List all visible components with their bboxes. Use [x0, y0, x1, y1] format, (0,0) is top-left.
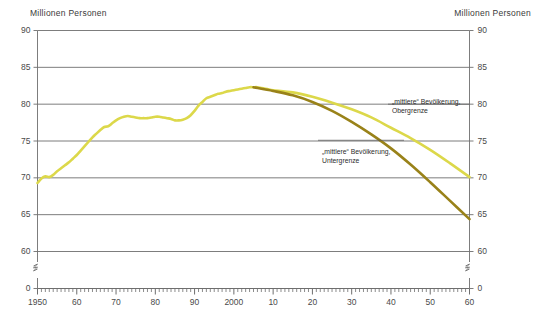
annotation-obergrenze: „mittlere“ Bevölkerung, Obergrenze	[392, 97, 460, 115]
y-tick-label-left-0: 0	[7, 283, 31, 293]
left-axis-break-icon	[34, 264, 38, 271]
y-tick-label-left-75: 75	[7, 136, 31, 146]
y-tick-label-right-75: 75	[478, 136, 502, 146]
y-tick-label-left-85: 85	[7, 62, 31, 72]
x-tick-label-10: 10	[253, 297, 293, 307]
plot-canvas	[0, 0, 539, 318]
annotation-untergrenze-line1: „mittlere“ Bevölkerung,	[322, 147, 390, 156]
y-tick-label-right-70: 70	[478, 172, 502, 182]
x-tick-label-30: 30	[332, 297, 372, 307]
x-tick-label-70: 70	[96, 297, 136, 307]
chart-figure: Millionen Personen Millionen Personen „m…	[0, 0, 539, 318]
x-tick-label-1950: 1950	[18, 297, 58, 307]
y-tick-label-right-65: 65	[478, 209, 502, 219]
x-tick-label-2000: 2000	[214, 297, 254, 307]
y-tick-label-left-90: 90	[7, 25, 31, 35]
x-tick-label-50: 50	[410, 297, 450, 307]
y-tick-label-right-90: 90	[478, 25, 502, 35]
annotation-obergrenze-line2: Obergrenze	[392, 106, 460, 115]
y-tick-label-left-65: 65	[7, 209, 31, 219]
annotation-untergrenze: „mittlere“ Bevölkerung, Untergrenze	[322, 147, 390, 165]
x-tick-label-60: 60	[450, 297, 490, 307]
y-tick-label-right-0: 0	[478, 283, 502, 293]
right-axis-break-icon	[466, 264, 470, 271]
y-tick-label-right-85: 85	[478, 62, 502, 72]
y-tick-label-left-70: 70	[7, 172, 31, 182]
y-tick-label-left-60: 60	[7, 246, 31, 256]
x-tick-label-20: 20	[292, 297, 332, 307]
annotation-untergrenze-line2: Untergrenze	[322, 156, 390, 165]
annotation-obergrenze-line1: „mittlere“ Bevölkerung,	[392, 97, 460, 106]
x-tick-label-60: 60	[57, 297, 97, 307]
y-tick-label-right-80: 80	[478, 99, 502, 109]
x-tick-label-90: 90	[175, 297, 215, 307]
x-tick-label-40: 40	[371, 297, 411, 307]
y-tick-label-left-80: 80	[7, 99, 31, 109]
y-tick-label-right-60: 60	[478, 246, 502, 256]
x-tick-label-80: 80	[135, 297, 175, 307]
